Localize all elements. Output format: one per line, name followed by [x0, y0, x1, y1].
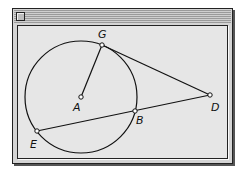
radius-AG [81, 45, 102, 97]
tangent-GD [102, 45, 210, 95]
secant-ED [37, 95, 210, 131]
label-B: B [136, 114, 144, 127]
label-G: G [98, 28, 107, 41]
point-E[interactable] [35, 129, 39, 133]
point-A[interactable] [79, 95, 83, 99]
point-B[interactable] [133, 109, 137, 113]
label-D: D [211, 101, 219, 114]
label-A: A [72, 101, 81, 114]
label-E: E [30, 138, 37, 151]
point-D[interactable] [208, 93, 212, 97]
point-G[interactable] [100, 43, 104, 47]
geometry-diagram: G A D B E [0, 0, 240, 171]
